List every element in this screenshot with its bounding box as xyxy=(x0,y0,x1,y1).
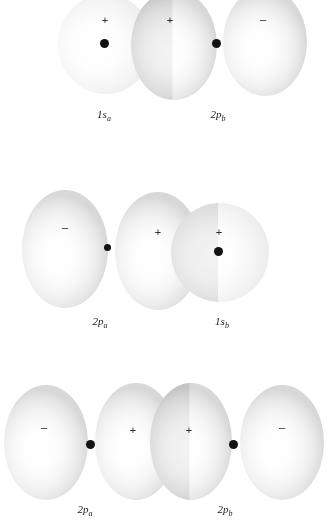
label-1s-b-sub: b xyxy=(225,321,229,330)
label-2p-a-row2-text: 2p xyxy=(93,315,104,327)
nucleus-1s-b xyxy=(214,247,223,256)
sign-positive-2p-b-row3: + xyxy=(182,425,196,436)
sign-negative-2p-a: − xyxy=(58,222,72,235)
sign-positive-1s-b: + xyxy=(212,227,226,238)
label-1s-a-text: 1s xyxy=(97,108,107,120)
label-2p-b-row3: 2pb xyxy=(203,503,247,518)
label-1s-a-sub: a xyxy=(107,114,111,123)
orbital-overlap-figure: + + − 1sa 2pb − + + 2pa 1sb xyxy=(0,0,328,530)
nucleus-2p-a-row3 xyxy=(86,440,95,449)
label-2p-a-row2: 2pa xyxy=(78,315,122,330)
sign-negative-2p-a-row3: − xyxy=(37,422,51,435)
sign-positive-2p-a: + xyxy=(151,227,165,238)
sign-negative-2p-b-row3: − xyxy=(275,422,289,435)
label-2p-b: 2pb xyxy=(196,108,240,123)
label-2p-a-row2-sub: a xyxy=(104,321,108,330)
sign-positive-2p-a-row3: + xyxy=(126,425,140,436)
orbital-lobe-2p-a-negative-row3 xyxy=(4,385,88,500)
nucleus-2p-a xyxy=(104,244,111,251)
overlap-row-3: − + + − 2pa 2pb xyxy=(0,0,328,530)
label-2p-a-row3-sub: a xyxy=(89,509,93,518)
sign-positive-1s-a: + xyxy=(98,15,112,26)
label-2p-b-text: 2p xyxy=(211,108,222,120)
label-2p-b-sub: b xyxy=(222,114,226,123)
label-1s-a: 1sa xyxy=(82,108,126,123)
orbital-lobe-2p-b-negative-row3 xyxy=(240,385,324,500)
nucleus-1s-a xyxy=(100,39,109,48)
label-1s-b: 1sb xyxy=(200,315,244,330)
sign-positive-2p-b: + xyxy=(163,15,177,26)
nucleus-2p-b xyxy=(212,39,221,48)
label-2p-a-row3: 2pa xyxy=(63,503,107,518)
sign-negative-2p-b: − xyxy=(256,14,270,27)
label-2p-b-row3-text: 2p xyxy=(218,503,229,515)
label-2p-a-row3-text: 2p xyxy=(78,503,89,515)
label-1s-b-text: 1s xyxy=(215,315,225,327)
nucleus-2p-b-row3 xyxy=(229,440,238,449)
label-2p-b-row3-sub: b xyxy=(229,509,233,518)
